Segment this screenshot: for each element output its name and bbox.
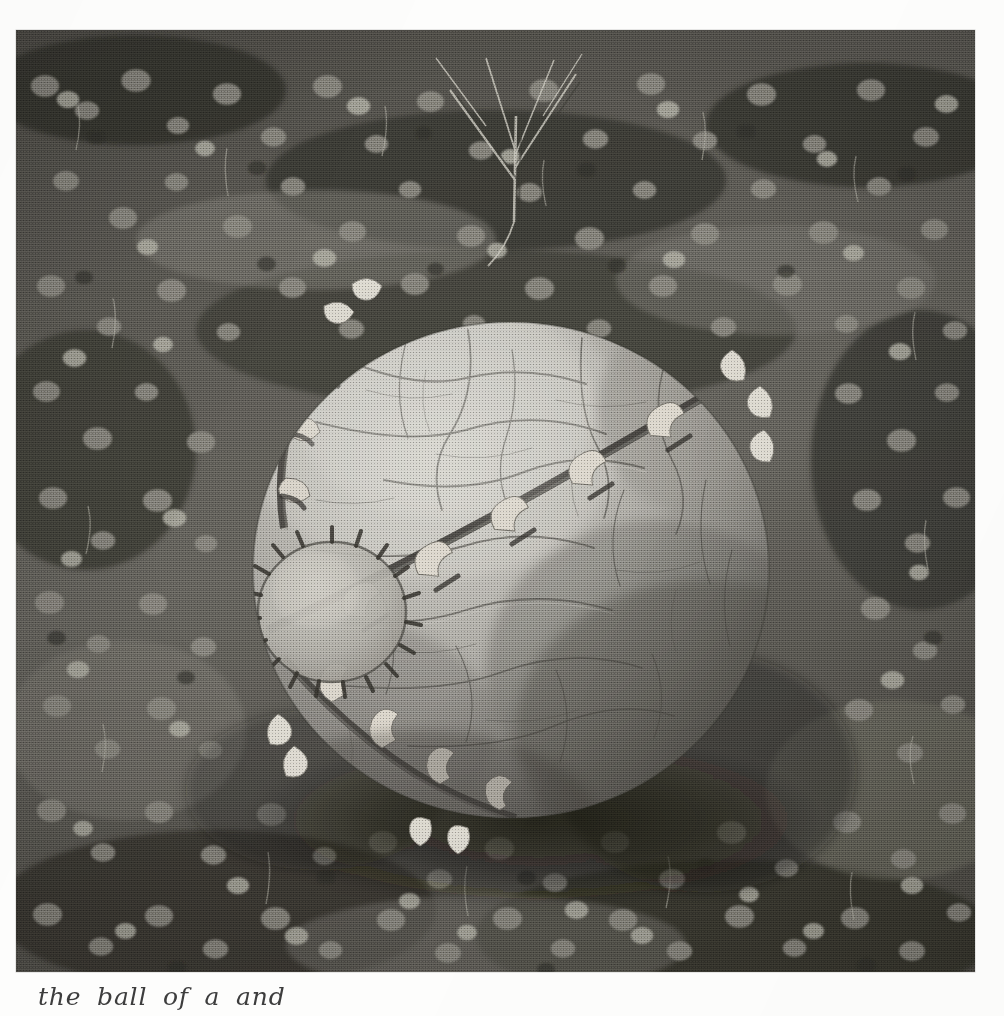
caption: the ball of a and <box>16 986 975 1016</box>
caption-text: the ball of a and <box>38 986 285 1011</box>
photograph <box>16 30 975 972</box>
scanned-page: the ball of a and <box>0 0 1004 1016</box>
photograph-canvas <box>16 30 975 972</box>
